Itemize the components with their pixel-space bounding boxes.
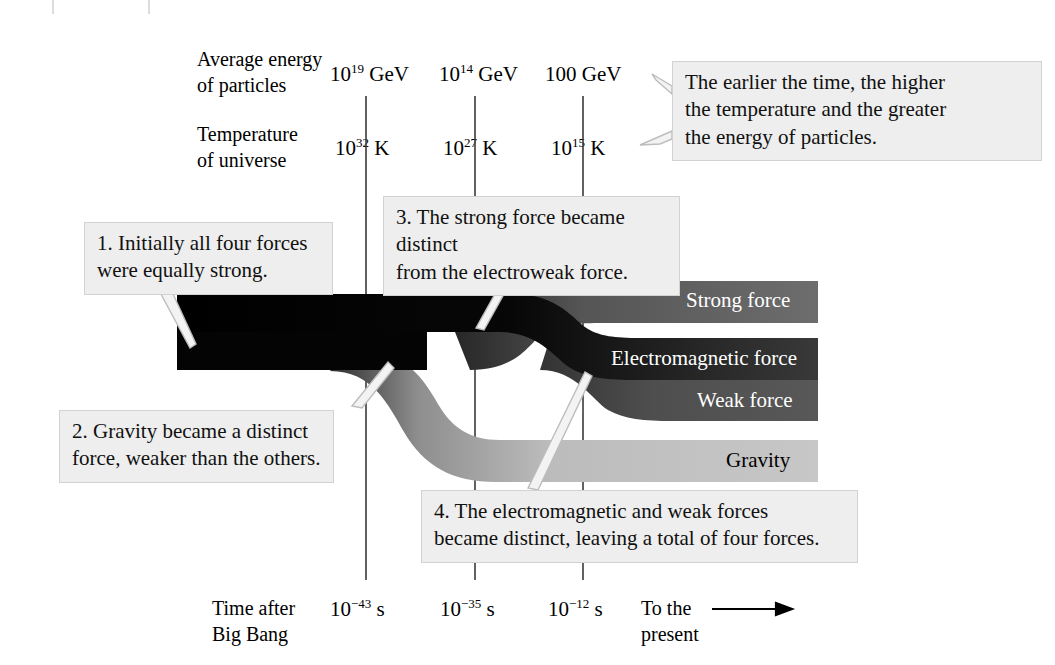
leader-intro-temp (640, 131, 672, 145)
callout-note-1: 1. Initially all four forces were equall… (84, 222, 333, 295)
callout-note-2-line1: 2. Gravity became a distinct (72, 418, 321, 445)
callout-note-4: 4. The electromagnetic and weak forces b… (421, 490, 858, 563)
callout-note-4-line2: became distinct, leaving a total of four… (434, 525, 845, 552)
callout-note-3-line2: from the electroweak force. (396, 259, 667, 286)
callout-note-3: 3. The strong force became distinct from… (383, 196, 680, 296)
figure-canvas: Strong force Electromagnetic force Weak … (0, 0, 1055, 665)
leader-intro-energy (652, 74, 672, 94)
leader-note2 (352, 362, 394, 408)
callout-note-2: 2. Gravity became a distinct force, weak… (59, 410, 334, 483)
callout-intro-line2: the temperature and the greater (685, 96, 1029, 123)
callout-note-1-line1: 1. Initially all four forces (97, 230, 320, 257)
leader-note4 (528, 372, 592, 490)
callout-note-2-line2: force, weaker than the others. (72, 445, 321, 472)
callout-note-4-line1: 4. The electromagnetic and weak forces (434, 498, 845, 525)
callout-intro: The earlier the time, the higher the tem… (672, 61, 1042, 161)
callout-intro-line3: the energy of particles. (685, 124, 1029, 151)
callout-note-3-line1: 3. The strong force became distinct (396, 204, 667, 259)
callout-note-1-line2: were equally strong. (97, 257, 320, 284)
callout-intro-line1: The earlier the time, the higher (685, 69, 1029, 96)
